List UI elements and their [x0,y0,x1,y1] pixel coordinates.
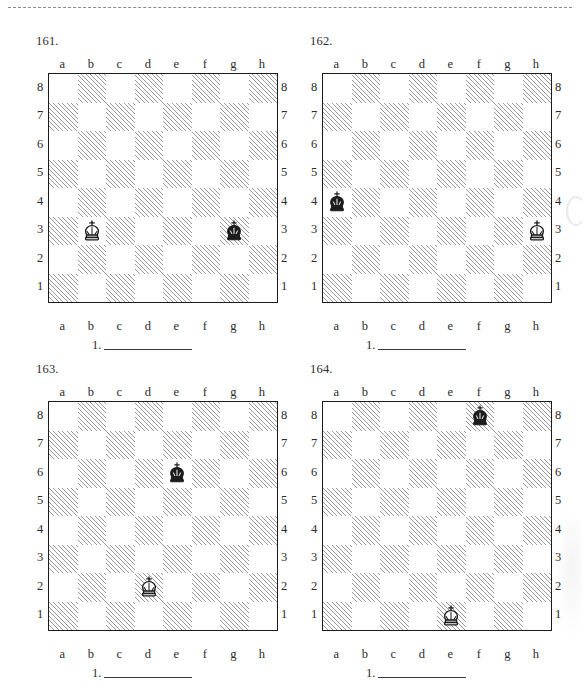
square-b1[interactable] [352,602,381,631]
square-b8[interactable] [352,74,381,103]
square-d1[interactable] [135,274,164,303]
square-a1[interactable] [49,602,78,631]
square-h6[interactable] [523,131,552,160]
chess-board[interactable] [322,401,552,631]
square-f7[interactable] [192,431,221,460]
square-a6[interactable] [323,459,352,488]
square-b7[interactable] [352,431,381,460]
square-g2[interactable] [494,245,523,274]
square-e8[interactable] [437,402,466,431]
square-f8[interactable] [192,74,221,103]
square-d8[interactable] [409,74,438,103]
square-a6[interactable] [49,459,78,488]
square-g8[interactable] [220,74,249,103]
square-h7[interactable] [523,431,552,460]
square-f6[interactable] [466,459,495,488]
square-b5[interactable] [78,160,107,189]
square-h6[interactable] [249,459,278,488]
square-d5[interactable] [409,488,438,517]
square-e1[interactable] [163,274,192,303]
square-f3[interactable] [192,545,221,574]
square-h3[interactable] [249,217,278,246]
square-g8[interactable] [220,402,249,431]
square-g3[interactable] [494,545,523,574]
square-b8[interactable] [78,402,107,431]
square-h6[interactable] [523,459,552,488]
square-g1[interactable] [494,274,523,303]
square-a7[interactable] [323,431,352,460]
chess-board[interactable] [48,73,278,303]
square-b3[interactable] [78,545,107,574]
square-f8[interactable] [466,402,495,431]
square-h4[interactable] [249,516,278,545]
square-g4[interactable] [494,188,523,217]
square-a4[interactable] [323,516,352,545]
square-e2[interactable] [163,573,192,602]
square-g3[interactable] [494,217,523,246]
square-g4[interactable] [220,188,249,217]
square-e6[interactable] [437,131,466,160]
square-d5[interactable] [409,160,438,189]
square-a2[interactable] [323,245,352,274]
square-e6[interactable] [163,459,192,488]
square-c7[interactable] [380,103,409,132]
square-e1[interactable] [437,274,466,303]
square-c3[interactable] [106,217,135,246]
square-f6[interactable] [192,459,221,488]
square-e3[interactable] [437,217,466,246]
square-g1[interactable] [220,602,249,631]
square-a2[interactable] [49,573,78,602]
square-h7[interactable] [249,103,278,132]
square-f2[interactable] [192,245,221,274]
square-c1[interactable] [106,602,135,631]
square-b3[interactable] [78,217,107,246]
square-e5[interactable] [437,488,466,517]
square-h4[interactable] [249,188,278,217]
square-d2[interactable] [409,573,438,602]
square-e5[interactable] [437,160,466,189]
square-g7[interactable] [220,103,249,132]
square-a4[interactable] [49,516,78,545]
square-c4[interactable] [380,188,409,217]
square-c4[interactable] [106,188,135,217]
square-e3[interactable] [437,545,466,574]
square-a6[interactable] [323,131,352,160]
square-f2[interactable] [192,573,221,602]
square-d7[interactable] [409,103,438,132]
square-a7[interactable] [49,103,78,132]
square-f2[interactable] [466,573,495,602]
square-b7[interactable] [78,103,107,132]
square-d6[interactable] [409,459,438,488]
white-king-icon[interactable] [79,217,105,243]
square-h5[interactable] [249,488,278,517]
square-a3[interactable] [49,217,78,246]
square-a5[interactable] [49,488,78,517]
square-e5[interactable] [163,488,192,517]
square-h8[interactable] [249,402,278,431]
square-c1[interactable] [380,274,409,303]
square-g7[interactable] [494,431,523,460]
square-e7[interactable] [163,103,192,132]
square-e1[interactable] [163,602,192,631]
square-a5[interactable] [323,160,352,189]
square-b5[interactable] [352,160,381,189]
square-c5[interactable] [106,160,135,189]
square-h4[interactable] [523,188,552,217]
square-g7[interactable] [494,103,523,132]
square-d5[interactable] [135,488,164,517]
square-f7[interactable] [192,103,221,132]
square-d3[interactable] [409,217,438,246]
square-b2[interactable] [352,573,381,602]
square-d4[interactable] [409,516,438,545]
square-f6[interactable] [192,131,221,160]
square-h2[interactable] [249,245,278,274]
square-h4[interactable] [523,516,552,545]
square-h7[interactable] [249,431,278,460]
white-king-icon[interactable] [438,602,464,628]
square-d4[interactable] [135,516,164,545]
square-c1[interactable] [380,602,409,631]
square-d4[interactable] [135,188,164,217]
square-a3[interactable] [323,217,352,246]
square-f3[interactable] [466,545,495,574]
square-h8[interactable] [523,402,552,431]
